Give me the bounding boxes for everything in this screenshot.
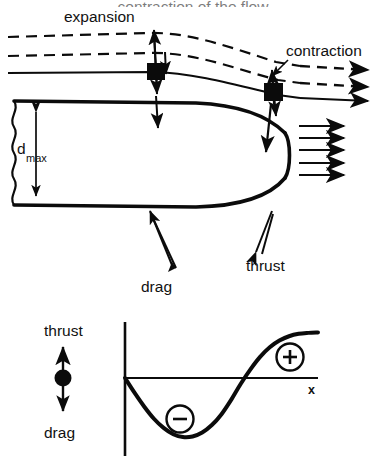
d-max-subscript: max: [26, 152, 47, 164]
legend-dot-marker: [55, 370, 72, 387]
figure-canvas: contraction of the flow expansion contra…: [0, 0, 386, 469]
legend-drag-label: drag: [44, 424, 75, 441]
plot-x-axis-label: x: [308, 383, 315, 397]
contraction-label: contraction: [286, 42, 362, 59]
aft-foil-marker: [264, 83, 283, 101]
thrust-label: thrust: [246, 257, 285, 274]
legend-thrust-label: thrust: [44, 322, 83, 339]
expansion-label: expansion: [64, 8, 135, 25]
forward-foil-marker: [147, 63, 165, 80]
drag-label: drag: [141, 278, 172, 295]
background: [0, 0, 386, 469]
forward-foil-side-arrow: [165, 52, 166, 74]
d-max-symbol: d: [17, 140, 26, 157]
diagram-svg: contraction of the flow expansion contra…: [0, 0, 386, 469]
